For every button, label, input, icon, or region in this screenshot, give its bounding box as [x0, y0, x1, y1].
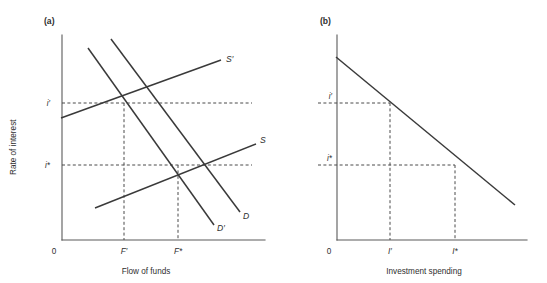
panel-b-label: (b) — [320, 16, 331, 26]
panel-b-origin-label: 0 — [327, 247, 332, 256]
economics-figure: (a) Rate of interest i′ i* 0 F′ F* Flow … — [0, 0, 547, 283]
panel-b-curve-investment-demand — [336, 57, 515, 205]
panel-a-y-tick-i-star: i* — [45, 161, 51, 170]
panel-a-curve-d-prime — [88, 48, 214, 225]
panel-a-curve-s — [95, 144, 256, 208]
panel-a-curve-label-s: S — [260, 135, 266, 145]
panel-a-curve-s-prime — [61, 60, 221, 118]
panel-a: (a) Rate of interest i′ i* 0 F′ F* Flow … — [9, 16, 266, 276]
panel-b: (b) i′ i* 0 I′ I* Investment spending — [318, 16, 527, 276]
panel-a-x-axis-title: Flow of funds — [122, 267, 171, 276]
panel-a-curve-d — [111, 39, 240, 212]
panel-a-x-tick-f-prime: F′ — [121, 247, 128, 256]
panel-b-y-tick-i-prime: i′ — [329, 92, 333, 101]
panel-a-y-axis-title: Rate of interest — [9, 119, 18, 175]
panel-a-curve-label-d: D — [243, 211, 249, 221]
panel-a-curve-label-d-prime: D′ — [217, 223, 225, 233]
panel-b-y-tick-i-star: i* — [327, 154, 333, 163]
panel-b-x-tick-capital-i-star: I* — [452, 247, 458, 256]
panel-a-label: (a) — [44, 16, 55, 26]
panel-a-curve-label-s-prime: S′ — [226, 54, 234, 64]
panel-a-y-tick-i-prime: i′ — [47, 99, 51, 108]
panel-a-origin-label: 0 — [52, 247, 57, 256]
figure-canvas: (a) Rate of interest i′ i* 0 F′ F* Flow … — [0, 0, 547, 283]
panel-b-x-axis-title: Investment spending — [386, 267, 462, 276]
panel-a-x-tick-f-star: F* — [174, 247, 183, 256]
panel-b-x-tick-capital-i-prime: I′ — [388, 247, 392, 256]
